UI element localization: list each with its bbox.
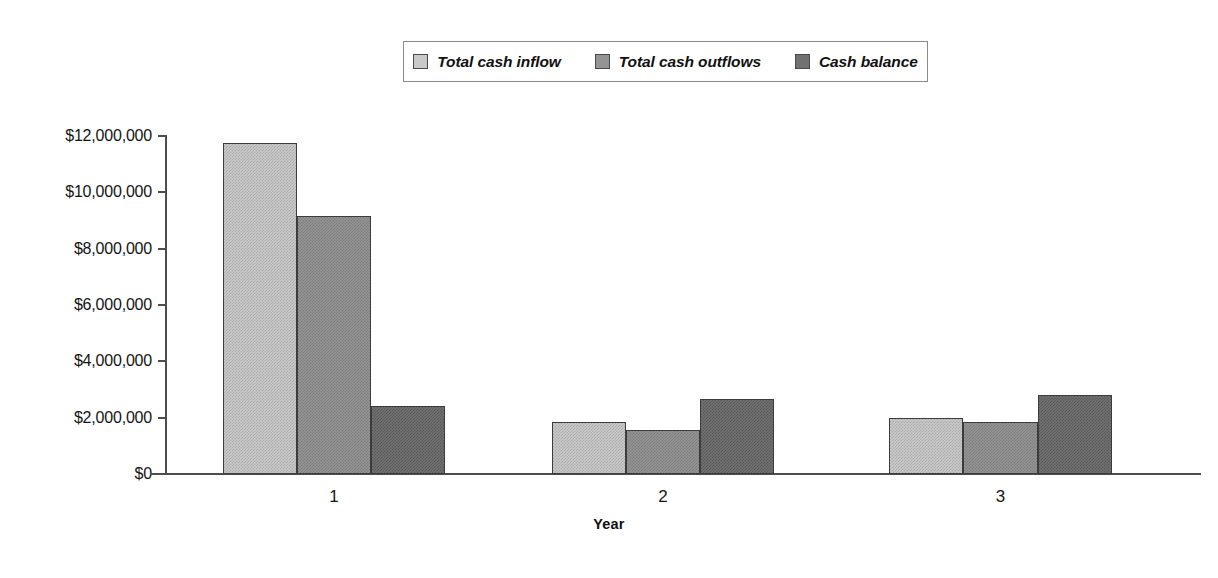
y-axis-tick-label: $4,000,000 (74, 352, 152, 370)
legend-swatch-cash-balance (795, 54, 810, 69)
legend-item-total-cash-outflows: Total cash outflows (595, 53, 761, 71)
x-axis-title: Year (0, 516, 1218, 532)
y-axis-tick-label: $2,000,000 (74, 409, 152, 427)
plot-area (165, 136, 1200, 474)
legend-swatch-total-cash-outflows (595, 54, 610, 69)
y-axis-labels: $12,000,000$10,000,000$8,000,000$6,000,0… (0, 0, 152, 578)
legend-item-total-cash-inflow: Total cash inflow (413, 53, 560, 71)
y-axis-tick-label: $10,000,000 (65, 183, 152, 201)
y-axis-tick-label: $6,000,000 (74, 296, 152, 314)
x-axis-tick-label-3: 3 (940, 487, 1060, 507)
legend-label-total-cash-outflows: Total cash outflows (619, 53, 761, 71)
y-axis-tick-label: $8,000,000 (74, 240, 152, 258)
bar-total-cash-outflows-year-2 (626, 430, 700, 474)
bar-total-cash-inflow-year-1 (223, 143, 297, 474)
bar-cash-balance-year-1 (371, 406, 445, 474)
bar-total-cash-inflow-year-2 (552, 422, 626, 474)
bar-cash-balance-year-2 (700, 399, 774, 474)
legend-swatch-total-cash-inflow (413, 54, 428, 69)
bar-cash-balance-year-3 (1038, 395, 1112, 474)
legend-label-total-cash-inflow: Total cash inflow (437, 53, 560, 71)
x-axis-tick-label-1: 1 (274, 487, 394, 507)
bar-chart: Total cash inflow Total cash outflows Ca… (0, 0, 1218, 578)
y-axis-tick-label: $12,000,000 (65, 127, 152, 145)
legend-label-cash-balance: Cash balance (819, 53, 918, 71)
chart-legend: Total cash inflow Total cash outflows Ca… (403, 41, 928, 82)
legend-item-cash-balance: Cash balance (795, 53, 918, 71)
bar-total-cash-outflows-year-3 (963, 422, 1037, 474)
bar-total-cash-outflows-year-1 (297, 216, 371, 474)
bar-total-cash-inflow-year-3 (889, 418, 963, 474)
x-axis-tick-label-2: 2 (603, 487, 723, 507)
